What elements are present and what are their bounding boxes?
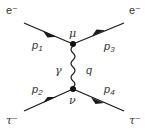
vertex-bottom xyxy=(70,86,76,92)
arrow-icon xyxy=(92,30,105,37)
label-p3: p3 xyxy=(103,40,115,54)
label-p4: p4 xyxy=(103,83,115,97)
tau-out-line xyxy=(73,89,124,111)
photon-propagator xyxy=(71,46,75,87)
feynman-diagram: e⁻ e⁻ τ⁻ τ⁻ p1 p3 p2 p4 μ ν γ q xyxy=(0,0,145,136)
vertex-top xyxy=(70,41,76,47)
label-tau-in: τ⁻ xyxy=(6,114,18,127)
arrow-icon xyxy=(43,31,56,38)
label-tau-out: τ⁻ xyxy=(129,114,141,127)
label-electron-out: e⁻ xyxy=(129,4,141,16)
electron-out-line xyxy=(73,23,124,44)
label-q: q xyxy=(86,64,93,76)
label-mu: μ xyxy=(69,27,76,40)
label-electron-in: e⁻ xyxy=(6,4,18,16)
label-nu: ν xyxy=(69,94,76,107)
arrow-icon xyxy=(91,98,104,105)
label-gamma: γ xyxy=(55,64,62,77)
label-p1: p1 xyxy=(31,39,43,53)
label-p2: p2 xyxy=(31,83,43,97)
